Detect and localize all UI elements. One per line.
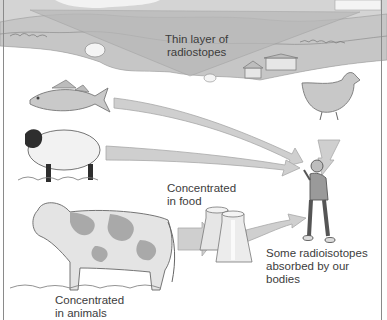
frame-left-border xyxy=(3,0,4,320)
frame-right-border xyxy=(381,0,382,320)
label-absorbed: Some radioisotopes absorbed by our bodie… xyxy=(266,247,368,286)
label-concentrated-animals: Concentrated in animals xyxy=(55,294,124,320)
label-concentrated-food: Concentrated in food xyxy=(167,182,236,208)
milk-churns xyxy=(200,207,252,262)
label-thin-layer: Thin layer of radiostopes xyxy=(165,33,228,59)
arrow-food-to-human xyxy=(246,214,306,242)
radioisotope-diagram: Thin layer of radiostopes Concentrated i… xyxy=(0,0,387,320)
chicken xyxy=(302,73,360,120)
cow xyxy=(10,203,175,290)
sheep xyxy=(18,129,100,182)
human xyxy=(303,160,335,243)
fish xyxy=(30,80,110,112)
